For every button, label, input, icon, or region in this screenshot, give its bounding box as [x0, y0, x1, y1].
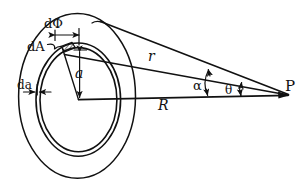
label-R: R [158, 98, 169, 112]
alpha-arc-arrow-top [208, 70, 210, 76]
edge-line-hook [92, 21, 101, 23]
label-point-P: P [285, 79, 295, 94]
hatched-area-element [61, 42, 75, 52]
theta-arc-arrow-bottom [240, 91, 241, 95]
label-dA: dA [27, 40, 45, 53]
label-da: da [17, 79, 32, 91]
label-r: r [148, 49, 155, 63]
baseline-R [79, 95, 289, 99]
label-d-phi: dΦ [44, 17, 63, 30]
theta-arc-arrow-top [241, 83, 242, 87]
label-alpha: α [193, 79, 202, 92]
label-a: a [75, 66, 83, 80]
label-theta: θ [225, 84, 232, 96]
alpha-arc-arrow-bottom [206, 89, 207, 95]
geometry-figure: dΦ dA da a r R α θ P [0, 0, 307, 191]
distance-line-r [65, 55, 289, 96]
